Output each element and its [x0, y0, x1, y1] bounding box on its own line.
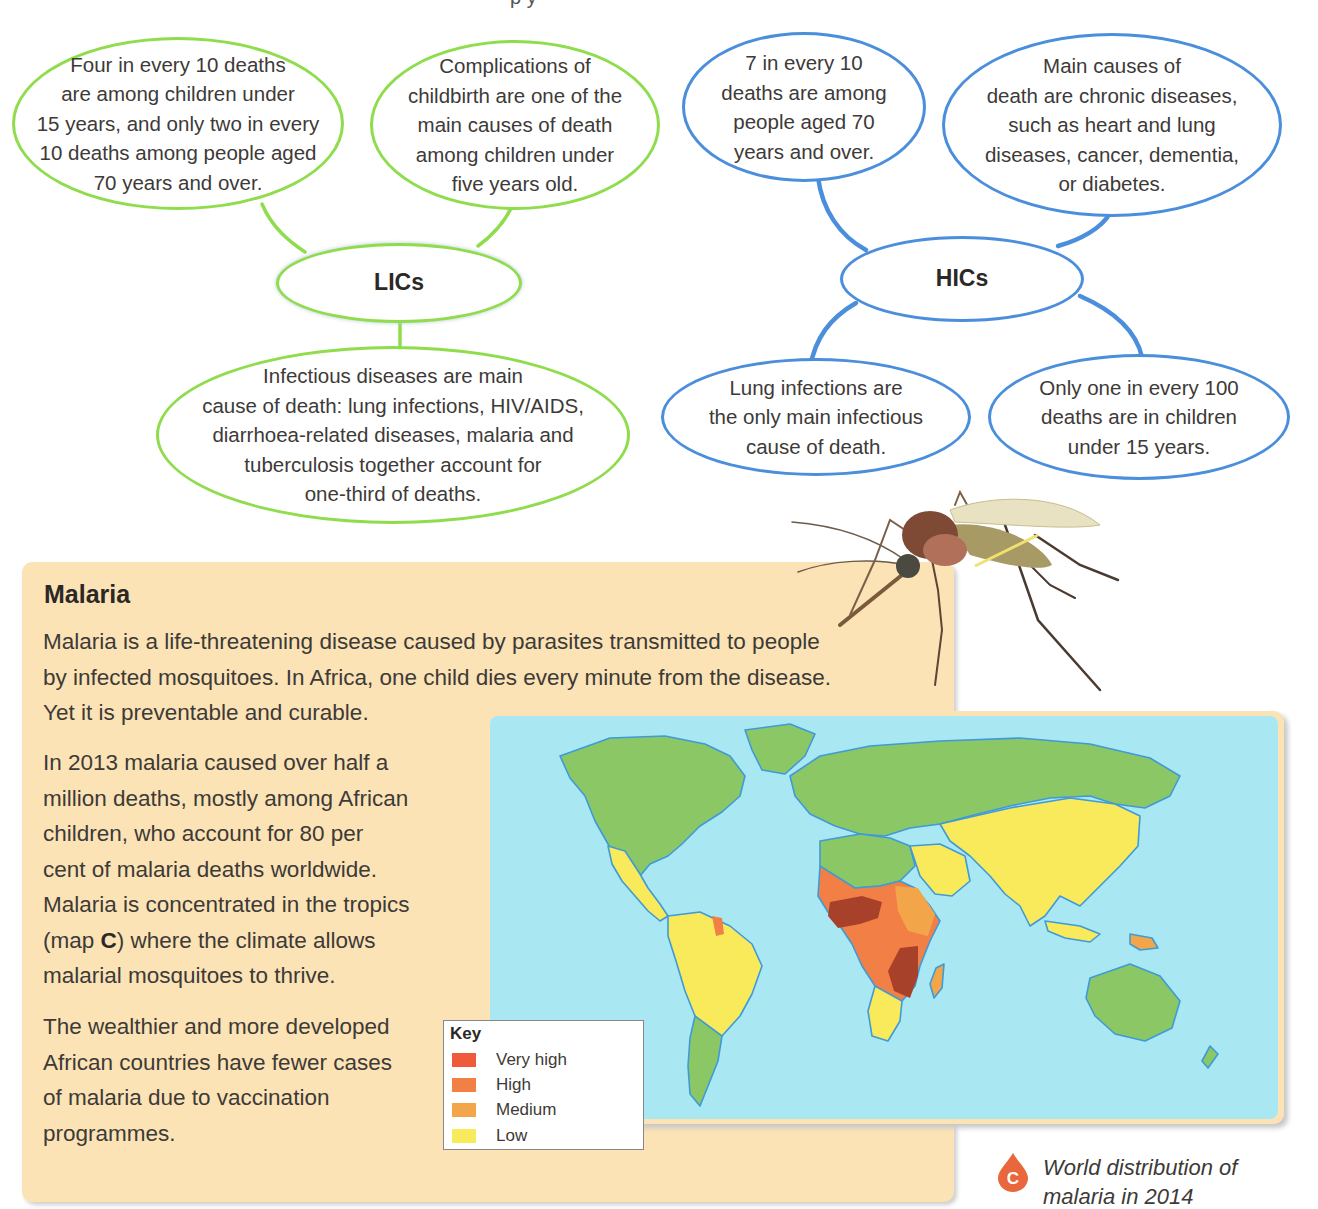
- lic-hub: LICs: [276, 243, 522, 323]
- hic-bubble-lung: Lung infections are the only main infect…: [661, 358, 971, 476]
- map-reference: C: [101, 928, 117, 953]
- key-label: Medium: [496, 1100, 556, 1120]
- hic-hub: HICs: [840, 236, 1084, 322]
- key-item-very-high: Very high: [452, 1049, 567, 1071]
- key-swatch-high: [452, 1078, 476, 1092]
- key-swatch-very-high: [452, 1053, 476, 1067]
- lic-bubble-text: Four in every 10 deaths are among childr…: [37, 50, 320, 198]
- key-swatch-medium: [452, 1103, 476, 1117]
- arabian-peninsula: [910, 844, 970, 896]
- lic-hub-label: LICs: [374, 268, 424, 298]
- key-label: Low: [496, 1126, 527, 1146]
- lic-bubble-text: Infectious diseases are main cause of de…: [202, 361, 584, 509]
- hic-bubble-age-deaths: 7 in every 10 deaths are among people ag…: [682, 32, 926, 182]
- para-text: In 2013 malaria caused over half a milli…: [43, 750, 409, 953]
- figure-drop-icon: C: [996, 1152, 1030, 1192]
- hic-bubble-text: Only one in every 100 deaths are in chil…: [1039, 373, 1238, 462]
- figure-letter: C: [1007, 1169, 1019, 1188]
- indonesia: [1045, 921, 1100, 942]
- australia: [1086, 964, 1180, 1041]
- malaria-vaccination-paragraph: The wealthier and more developed African…: [43, 1009, 392, 1151]
- malaria-deaths-paragraph: In 2013 malaria caused over half a milli…: [43, 745, 409, 994]
- key-label: Very high: [496, 1050, 567, 1070]
- lic-bubble-age-deaths: Four in every 10 deaths are among childr…: [12, 37, 344, 210]
- north-america: [560, 736, 745, 876]
- map-key: Key Very high High Medium Low: [443, 1020, 644, 1150]
- hic-bubble-text: Lung infections are the only main infect…: [709, 373, 923, 462]
- lic-bubble-text: Complications of childbirth are one of t…: [408, 51, 622, 199]
- key-item-high: High: [452, 1074, 531, 1096]
- key-title: Key: [450, 1024, 481, 1044]
- hic-bubble-text: Main causes of death are chronic disease…: [985, 51, 1239, 199]
- lic-bubble-childbirth: Complications of childbirth are one of t…: [370, 40, 660, 210]
- lic-bubble-infectious: Infectious diseases are main cause of de…: [156, 346, 630, 524]
- new-zealand: [1202, 1046, 1218, 1068]
- hic-bubble-children: Only one in every 100 deaths are in chil…: [988, 354, 1290, 480]
- key-swatch-low: [452, 1129, 476, 1143]
- key-item-medium: Medium: [452, 1099, 556, 1121]
- hic-hub-label: HICs: [936, 264, 988, 294]
- key-label: High: [496, 1075, 531, 1095]
- madagascar-medium: [930, 964, 944, 998]
- papua-new-guinea: [1130, 934, 1158, 950]
- hic-bubble-text: 7 in every 10 deaths are among people ag…: [721, 48, 886, 166]
- map-caption: World distribution of malaria in 2014: [1043, 1153, 1237, 1209]
- hic-bubble-chronic: Main causes of death are chronic disease…: [942, 33, 1282, 217]
- mosquito-illustration: [780, 480, 1120, 700]
- africa-subsaharan: [818, 866, 940, 1004]
- south-east-asia: [940, 798, 1140, 926]
- key-item-low: Low: [452, 1125, 527, 1147]
- malaria-title: Malaria: [44, 580, 130, 609]
